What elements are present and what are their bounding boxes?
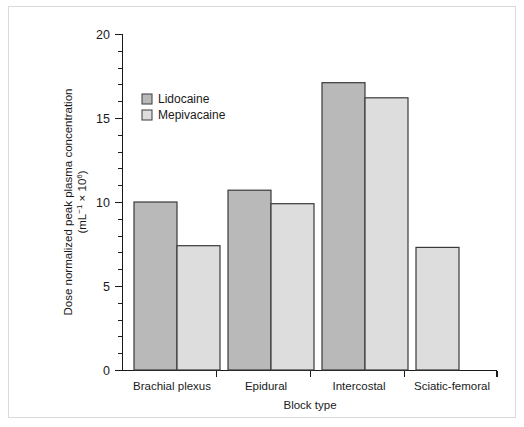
bar-mepivacaine-intercostal[interactable] xyxy=(365,98,408,370)
bar-group-intercostal xyxy=(322,83,408,370)
bar-mepivacaine-sciatic-femoral[interactable] xyxy=(416,247,459,370)
bar-lidocaine-epidural[interactable] xyxy=(228,190,271,370)
legend: Lidocaine Mepivacaine xyxy=(142,92,226,122)
y-tick-label-10: 10 xyxy=(96,196,110,210)
bar-group-epidural xyxy=(228,190,314,370)
y-tick-label-15: 15 xyxy=(96,112,110,126)
x-axis-title: Block type xyxy=(283,399,336,411)
legend-swatch-mepivacaine xyxy=(142,110,152,120)
x-category-label-intercostal: Intercostal xyxy=(332,380,385,392)
legend-label-lidocaine: Lidocaine xyxy=(158,92,210,106)
bar-mepivacaine-epidural[interactable] xyxy=(271,204,314,370)
bar-group-sciatic-femoral xyxy=(416,247,459,370)
x-axis-category-labels: Brachial plexus Epidural Intercostal Sci… xyxy=(133,380,490,392)
figure-container: 0 5 10 15 20 Dose normalized peak plasma… xyxy=(0,0,524,427)
legend-swatch-lidocaine xyxy=(142,94,152,104)
y-tick-label-20: 20 xyxy=(96,28,110,42)
x-category-label-epidural: Epidural xyxy=(245,380,287,392)
plot-area: 0 5 10 15 20 Dose normalized peak plasma… xyxy=(0,0,524,427)
legend-label-mepivacaine: Mepivacaine xyxy=(158,108,226,122)
y-tick-label-0: 0 xyxy=(103,364,110,378)
x-axis-ticks xyxy=(217,371,498,378)
bar-mepivacaine-brachial-plexus[interactable] xyxy=(177,246,220,370)
y-axis-units-mid: × 10 xyxy=(76,179,88,205)
x-category-label-sciatic-femoral: Sciatic-femoral xyxy=(414,380,490,392)
bar-lidocaine-brachial-plexus[interactable] xyxy=(134,202,177,370)
bar-group-brachial-plexus xyxy=(134,202,220,370)
chart-svg: 0 5 10 15 20 Dose normalized peak plasma… xyxy=(0,0,524,427)
y-tick-label-5: 5 xyxy=(103,280,110,294)
legend-entry-mepivacaine[interactable]: Mepivacaine xyxy=(142,108,226,122)
y-axis-title-line2: (mL−1 × 106) xyxy=(75,170,88,233)
y-axis-tick-labels: 0 5 10 15 20 xyxy=(96,28,110,378)
y-axis-title-line1: Dose normalized peak plasma concentratio… xyxy=(62,89,74,316)
y-axis-units-prefix: (mL xyxy=(76,213,88,233)
y-axis-units-end: ) xyxy=(76,170,88,174)
x-category-label-brachial-plexus: Brachial plexus xyxy=(133,380,211,392)
y-axis-title: Dose normalized peak plasma concentratio… xyxy=(62,89,88,316)
legend-entry-lidocaine[interactable]: Lidocaine xyxy=(142,92,210,106)
bar-lidocaine-intercostal[interactable] xyxy=(322,83,365,370)
